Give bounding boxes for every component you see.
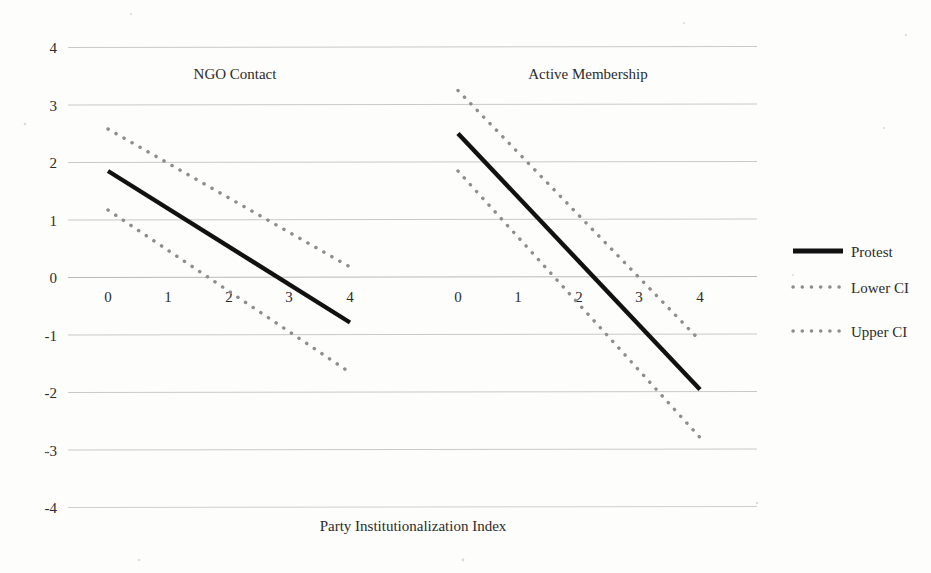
x-tick-label: 0 bbox=[454, 289, 462, 305]
legend-label-protest: Protest bbox=[851, 244, 894, 260]
x-tick-label: 1 bbox=[514, 289, 522, 305]
y-tick-label: 2 bbox=[50, 155, 58, 171]
x-tick-label: 4 bbox=[346, 289, 354, 305]
x-tick-label: 2 bbox=[575, 289, 583, 305]
y-tick-label: 3 bbox=[50, 98, 58, 114]
panel-title-ngo-contact: NGO Contact bbox=[194, 66, 278, 82]
y-tick-label: 1 bbox=[50, 213, 58, 229]
x-axis-title: Party Institutionalization Index bbox=[320, 518, 507, 534]
x-tick-label: 4 bbox=[696, 289, 704, 305]
x-tick-label: 1 bbox=[164, 289, 172, 305]
y-tick-label: -1 bbox=[45, 328, 58, 344]
y-tick-label: 4 bbox=[50, 40, 58, 56]
panel-title-active-membership: Active Membership bbox=[528, 66, 648, 82]
y-tick-label: -4 bbox=[45, 500, 58, 516]
y-tick-label: -2 bbox=[45, 385, 58, 401]
x-tick-label: 3 bbox=[635, 289, 643, 305]
chart-figure: 4 3 2 1 0 -1 -2 -3 -4 NGO Contact 0 1 2 … bbox=[0, 0, 931, 573]
chart-canvas: 4 3 2 1 0 -1 -2 -3 -4 NGO Contact 0 1 2 … bbox=[0, 0, 931, 573]
chart-background bbox=[0, 0, 931, 573]
y-tick-label: 0 bbox=[50, 270, 58, 286]
x-tick-label: 3 bbox=[285, 289, 293, 305]
y-tick-label: -3 bbox=[45, 443, 58, 459]
legend-label-lower-ci: Lower CI bbox=[851, 280, 909, 296]
x-tick-label: 0 bbox=[104, 289, 112, 305]
legend-label-upper-ci: Upper CI bbox=[851, 324, 907, 340]
